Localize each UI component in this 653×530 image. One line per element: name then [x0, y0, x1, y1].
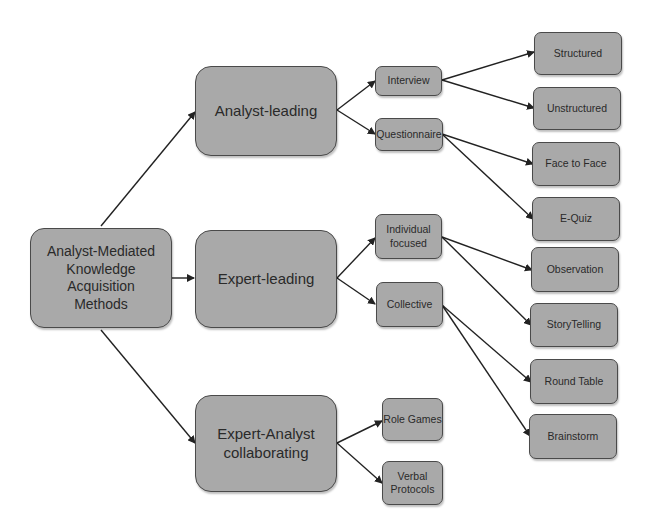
- node-label: StoryTelling: [547, 318, 601, 331]
- node-label: E-Quiz: [560, 212, 592, 225]
- node-label: Questionnaire: [376, 128, 441, 141]
- node-label: Expert-Analyst collaborating: [217, 425, 315, 463]
- edge-individual-storytelling: [442, 237, 531, 325]
- edge-collective-roundtable: [442, 305, 531, 382]
- node-label: Unstructured: [547, 102, 607, 115]
- node-label: Observation: [547, 263, 604, 276]
- node-storytelling: StoryTelling: [530, 303, 618, 347]
- node-label: Analyst-leading: [215, 102, 318, 121]
- node-label: Interview: [387, 74, 429, 87]
- node-role-games: Role Games: [382, 398, 443, 441]
- node-label: Expert-leading: [218, 270, 315, 289]
- edge-collective-brainstorm: [442, 305, 530, 436]
- node-structured: Structured: [534, 32, 622, 75]
- node-e-quiz: E-Quiz: [532, 197, 620, 241]
- node-label: Individual focused: [386, 223, 430, 249]
- edge-collab-rolegames: [337, 421, 382, 443]
- node-interview: Interview: [375, 66, 442, 96]
- edge-collab-verbal: [337, 443, 382, 483]
- node-round-table: Round Table: [530, 359, 618, 404]
- node-verbal-protocols: Verbal Protocols: [382, 461, 443, 505]
- edge-analyst-interview: [337, 81, 375, 110]
- node-label: Verbal Protocols: [391, 470, 435, 496]
- node-expert-leading: Expert-leading: [195, 230, 337, 328]
- node-face-to-face: Face to Face: [532, 142, 620, 186]
- node-unstructured: Unstructured: [533, 87, 621, 130]
- edge-interview-unstructured: [442, 80, 534, 108]
- node-expert-analyst-collaborating: Expert-Analyst collaborating: [195, 395, 337, 492]
- edge-root-expert-analyst: [101, 330, 195, 443]
- edge-expert-individual: [337, 238, 375, 278]
- node-observation: Observation: [531, 247, 619, 292]
- edge-interview-structured: [442, 52, 534, 80]
- node-individual-focused: Individual focused: [375, 214, 442, 259]
- edge-expert-collective: [337, 278, 375, 304]
- edge-root-analyst-leading: [101, 112, 195, 226]
- node-root-label: Analyst-Mediated Knowledge Acquisition M…: [47, 243, 155, 313]
- node-questionnaire: Questionnaire: [375, 118, 443, 151]
- node-label: Structured: [554, 47, 602, 60]
- edge-questionnaire-face: [442, 134, 533, 164]
- edge-individual-observation: [442, 237, 532, 270]
- node-label: Brainstorm: [548, 430, 599, 443]
- node-label: Face to Face: [545, 157, 606, 170]
- node-label: Round Table: [545, 375, 604, 388]
- node-root: Analyst-Mediated Knowledge Acquisition M…: [30, 228, 172, 328]
- node-analyst-leading: Analyst-leading: [195, 66, 337, 156]
- node-brainstorm: Brainstorm: [529, 414, 617, 459]
- edge-analyst-questionnaire: [337, 110, 375, 134]
- node-label: Role Games: [383, 413, 441, 426]
- edge-questionnaire-equiz: [442, 134, 533, 219]
- node-label: Collective: [387, 298, 433, 311]
- node-collective: Collective: [376, 282, 443, 327]
